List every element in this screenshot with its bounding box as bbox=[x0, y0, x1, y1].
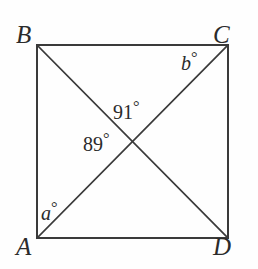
angle-value-89: 89 bbox=[83, 133, 103, 155]
angle-value-a: a bbox=[41, 202, 51, 224]
degree-symbol: ° bbox=[51, 198, 58, 217]
degree-symbol: ° bbox=[133, 97, 140, 116]
angle-label-91: 91° bbox=[113, 99, 140, 122]
angle-label-a: a° bbox=[41, 200, 58, 223]
geometry-figure: B C A D 91° 89° b° a° bbox=[0, 0, 258, 269]
vertex-label-C: C bbox=[213, 22, 230, 47]
angle-label-89: 89° bbox=[83, 131, 110, 154]
angle-value-91: 91 bbox=[113, 101, 133, 123]
angle-label-b: b° bbox=[181, 50, 198, 73]
vertex-label-B: B bbox=[16, 22, 32, 47]
degree-symbol: ° bbox=[191, 48, 198, 67]
degree-symbol: ° bbox=[103, 129, 110, 148]
vertex-label-D: D bbox=[213, 234, 232, 259]
angle-value-b: b bbox=[181, 52, 191, 74]
vertex-label-A: A bbox=[16, 234, 32, 259]
